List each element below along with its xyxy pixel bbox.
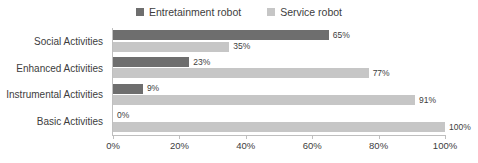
bar-group-enhanced-activities: 23% 77% — [113, 55, 445, 82]
bar-row-service-social: 35% — [113, 42, 250, 52]
y-axis-category-labels: Social Activities Enhanced Activities In… — [0, 28, 108, 135]
bar-row-entretainment-social: 65% — [113, 30, 350, 40]
bar-entretainment-social[interactable] — [113, 30, 329, 40]
x-axis-tick — [179, 135, 180, 139]
legend-entry-service-robot[interactable]: Service robot — [267, 7, 342, 18]
y-axis-label-enhanced-activities: Enhanced Activities — [16, 55, 103, 82]
bar-value-service-basic: 100% — [449, 123, 471, 132]
legend-label-entretainment-robot: Entretainment robot — [149, 7, 241, 18]
bar-value-service-instrumental: 91% — [419, 96, 436, 105]
bar-service-instrumental[interactable] — [113, 95, 415, 105]
bar-row-service-instrumental: 91% — [113, 95, 436, 105]
y-axis-label-instrumental-activities: Instrumental Activities — [6, 82, 103, 109]
legend-label-service-robot: Service robot — [280, 7, 342, 18]
x-axis-tick-label: 60% — [303, 140, 322, 151]
bar-row-entretainment-enhanced: 23% — [113, 57, 210, 67]
x-axis-tick — [445, 135, 446, 139]
x-axis-tick — [379, 135, 380, 139]
legend-swatch-service-robot — [267, 8, 275, 16]
grouped-bar-chart: Entretainment robot Service robot Social… — [0, 0, 478, 163]
legend-swatch-entretainment-robot — [136, 8, 144, 16]
bar-row-entretainment-instrumental: 9% — [113, 84, 159, 94]
bar-row-service-basic: 100% — [113, 122, 471, 132]
bar-value-entretainment-instrumental: 9% — [147, 84, 159, 93]
bar-value-service-social: 35% — [233, 42, 250, 51]
x-axis-tick-label: 0% — [106, 140, 120, 151]
bar-row-entretainment-basic: 0% — [113, 110, 129, 120]
x-axis-tick — [312, 135, 313, 139]
y-axis-label-social-activities: Social Activities — [34, 28, 103, 55]
bar-entretainment-enhanced[interactable] — [113, 57, 189, 67]
x-axis-tick-label: 100% — [433, 140, 457, 151]
x-axis-tick-label: 80% — [369, 140, 388, 151]
x-axis-tick-label: 20% — [170, 140, 189, 151]
x-axis-tick-labels: 0%20%40%60%80%100% — [113, 140, 445, 154]
bar-group-instrumental-activities: 9% 91% — [113, 82, 445, 109]
bar-group-basic-activities: 0% 100% — [113, 108, 445, 135]
bar-value-entretainment-enhanced: 23% — [193, 58, 210, 67]
bar-row-service-enhanced: 77% — [113, 68, 390, 78]
bar-service-enhanced[interactable] — [113, 68, 369, 78]
bar-service-basic[interactable] — [113, 122, 445, 132]
bar-value-entretainment-social: 65% — [333, 31, 350, 40]
bar-group-social-activities: 65% 35% — [113, 28, 445, 55]
bar-entretainment-instrumental[interactable] — [113, 84, 143, 94]
bar-value-entretainment-basic: 0% — [117, 111, 129, 120]
bar-value-service-enhanced: 77% — [373, 69, 390, 78]
y-axis-label-basic-activities: Basic Activities — [37, 108, 103, 135]
bar-service-social[interactable] — [113, 42, 229, 52]
x-axis-tick — [113, 135, 114, 139]
plot-area: 65% 35% 23% 77% 9% 91% — [113, 28, 445, 135]
x-axis-tick-label: 40% — [236, 140, 255, 151]
x-axis-tick — [246, 135, 247, 139]
legend-entry-entretainment-robot[interactable]: Entretainment robot — [136, 7, 241, 18]
chart-legend: Entretainment robot Service robot — [0, 4, 478, 20]
